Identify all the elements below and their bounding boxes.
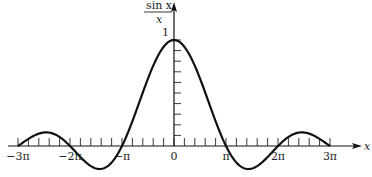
y-axis-label-numerator: sin x [146,0,173,12]
x-tick-label: 2π [271,150,285,163]
x-tick-label: 0 [171,150,178,163]
x-tick-label: −π [114,150,130,163]
y-tick-label: 1 [162,26,169,39]
x-tick-labels: −3π−2π−π0π2π3π [6,150,337,163]
y-axis-label-denominator: x [156,13,163,26]
x-axis-label: x [364,140,371,153]
x-tick-label: π [222,150,229,163]
sinc-chart: −3π−2π−π0π2π3π 1 x sin x x [0,0,372,177]
y-tick-labels: 1 [162,26,169,39]
y-axis-label: sin x x [144,0,173,26]
x-tick-label: −3π [6,150,29,163]
x-tick-label: −2π [58,150,81,163]
x-tick-label: 3π [323,150,337,163]
y-ticks [174,40,181,135]
